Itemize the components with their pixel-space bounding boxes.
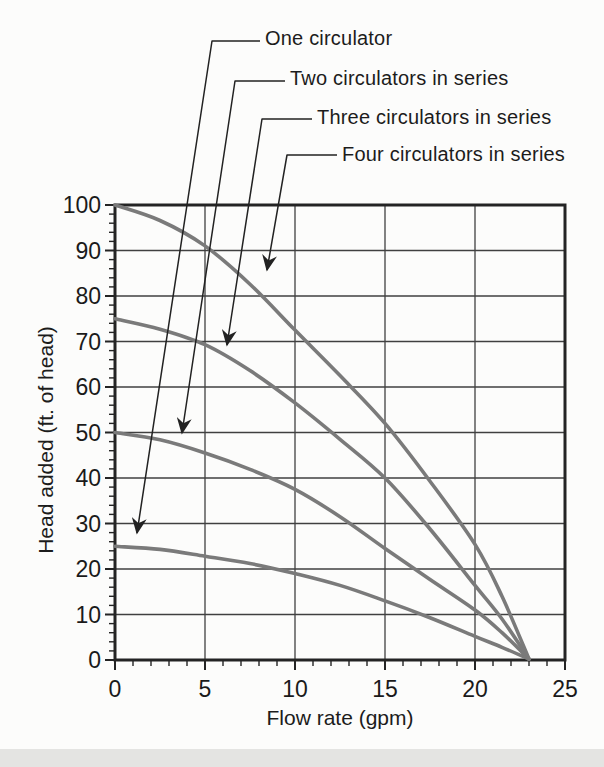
curve-three-circulators-in-series: [115, 319, 529, 659]
legend-label-four-circulators: Four circulators in series: [342, 143, 565, 166]
x-tick-label: 25: [552, 676, 578, 702]
x-tick-label: 20: [462, 676, 488, 702]
x-tick-label: 10: [282, 676, 308, 702]
scanned-figure-page: 05101520250102030405060708090100 One cir…: [0, 0, 604, 767]
y-tick-label: 60: [75, 374, 101, 400]
y-tick-label: 10: [75, 602, 101, 628]
x-tick-label: 0: [109, 676, 122, 702]
y-tick-label: 0: [88, 647, 101, 673]
curve-two-circulators-in-series: [115, 433, 529, 660]
y-tick-label: 70: [75, 329, 101, 355]
legend-label-one-circulator: One circulator: [265, 27, 392, 50]
x-axis-title: Flow rate (gpm): [266, 706, 413, 730]
y-tick-label: 30: [75, 511, 101, 537]
x-tick-label: 5: [199, 676, 212, 702]
y-axis-title: Head added (ft. of head): [34, 326, 58, 554]
y-tick-label: 50: [75, 420, 101, 446]
legend-label-three-circulators: Three circulators in series: [317, 106, 551, 129]
page-footer-band: [0, 749, 604, 767]
y-tick-label: 100: [63, 192, 101, 218]
y-tick-label: 80: [75, 283, 101, 309]
leader-line: [267, 155, 337, 270]
y-tick-label: 90: [75, 238, 101, 264]
leader-line: [137, 41, 260, 533]
y-tick-label: 20: [75, 556, 101, 582]
y-tick-label: 40: [75, 465, 101, 491]
legend-label-two-circulators: Two circulators in series: [290, 67, 508, 90]
leader-line: [227, 119, 312, 345]
x-tick-label: 15: [372, 676, 398, 702]
